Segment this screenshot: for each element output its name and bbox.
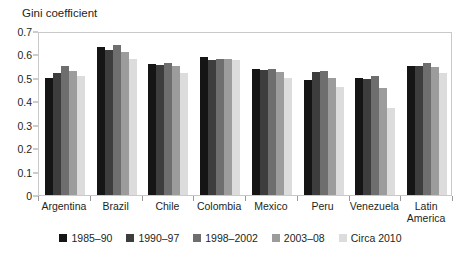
bar bbox=[304, 80, 312, 195]
bar bbox=[379, 88, 387, 195]
x-axis-label: Colombia bbox=[193, 200, 245, 212]
legend-swatch-icon bbox=[193, 234, 201, 242]
bar bbox=[172, 66, 180, 195]
bar bbox=[415, 66, 423, 195]
bar-group bbox=[298, 33, 350, 195]
bar-group-bars bbox=[401, 33, 453, 195]
bar bbox=[148, 64, 156, 195]
y-axis-tick-mark bbox=[33, 125, 38, 126]
bar-group-bars bbox=[194, 33, 246, 195]
bar bbox=[45, 78, 53, 195]
legend-label: 1998–2002 bbox=[205, 232, 258, 244]
bar-group bbox=[401, 33, 453, 195]
bar bbox=[105, 50, 113, 195]
bar bbox=[69, 71, 77, 195]
legend-item[interactable]: 1990–97 bbox=[126, 232, 179, 244]
x-axis-group-separator bbox=[90, 196, 91, 201]
bar bbox=[439, 73, 447, 195]
y-axis-tick-mark bbox=[33, 78, 38, 79]
bar-group-bars bbox=[298, 33, 350, 195]
bar bbox=[284, 78, 292, 195]
bar bbox=[371, 76, 379, 195]
x-axis-group-separator bbox=[349, 196, 350, 201]
x-axis-label: Latin America bbox=[400, 200, 452, 224]
bar-group bbox=[246, 33, 298, 195]
bar bbox=[232, 60, 240, 195]
x-axis-group-separator bbox=[38, 196, 39, 201]
bar bbox=[407, 66, 415, 195]
bar bbox=[260, 70, 268, 195]
bar bbox=[216, 59, 224, 195]
y-axis-tick-label: 0.4 bbox=[17, 97, 32, 108]
legend-label: 1985–90 bbox=[71, 232, 112, 244]
legend-label: 1990–97 bbox=[138, 232, 179, 244]
legend-item[interactable]: Circa 2010 bbox=[339, 232, 402, 244]
legend-item[interactable]: 1998–2002 bbox=[193, 232, 258, 244]
bar bbox=[387, 108, 395, 195]
legend-item[interactable]: 1985–90 bbox=[59, 232, 112, 244]
x-axis-group-separator bbox=[452, 196, 453, 201]
bar bbox=[328, 78, 336, 195]
bar bbox=[276, 72, 284, 195]
bar bbox=[121, 52, 129, 195]
x-axis-label: Peru bbox=[297, 200, 349, 212]
bar bbox=[164, 63, 172, 195]
x-axis-group-separator bbox=[193, 196, 194, 201]
x-axis-label: Mexico bbox=[245, 200, 297, 212]
y-axis-tick-mark bbox=[33, 32, 38, 33]
bar-group bbox=[91, 33, 143, 195]
y-axis-tick-label: 0.3 bbox=[17, 120, 32, 131]
x-axis-label: Venezuela bbox=[349, 200, 401, 212]
bar bbox=[431, 67, 439, 195]
bar bbox=[268, 69, 276, 196]
y-axis-tick-label: 0.5 bbox=[17, 73, 32, 84]
bar-group bbox=[39, 33, 91, 195]
x-axis-label: Chile bbox=[142, 200, 194, 212]
y-axis: 0.70.60.50.40.30.20.10 bbox=[0, 32, 32, 196]
x-axis-group-separator bbox=[400, 196, 401, 201]
chart-figure: Gini coefficient 0.70.60.50.40.30.20.10 … bbox=[0, 0, 461, 259]
bar bbox=[320, 71, 328, 195]
bar bbox=[252, 69, 260, 196]
legend-swatch-icon bbox=[339, 234, 347, 242]
legend-label: Circa 2010 bbox=[351, 232, 402, 244]
bar-group bbox=[350, 33, 402, 195]
y-axis-tick-mark bbox=[33, 149, 38, 150]
legend-swatch-icon bbox=[126, 234, 134, 242]
bar bbox=[208, 60, 216, 195]
legend-swatch-icon bbox=[272, 234, 280, 242]
y-axis-tick-mark bbox=[33, 102, 38, 103]
chart-title: Gini coefficient bbox=[22, 6, 97, 20]
chart-legend: 1985–901990–971998–20022003–08Circa 2010 bbox=[0, 232, 461, 244]
x-axis-group-separator bbox=[297, 196, 298, 201]
bar bbox=[61, 66, 69, 195]
legend-label: 2003–08 bbox=[284, 232, 325, 244]
bar-group-bars bbox=[39, 33, 91, 195]
x-axis-label: Brazil bbox=[90, 200, 142, 212]
plot-inner bbox=[39, 33, 451, 195]
y-axis-tick-label: 0.2 bbox=[17, 144, 32, 155]
bar bbox=[97, 47, 105, 195]
bar bbox=[224, 59, 232, 195]
y-axis-tick-mark bbox=[33, 55, 38, 56]
legend-swatch-icon bbox=[59, 234, 67, 242]
y-axis-tick-label: 0.1 bbox=[17, 167, 32, 178]
bar bbox=[129, 59, 137, 195]
legend-item[interactable]: 2003–08 bbox=[272, 232, 325, 244]
bar bbox=[355, 78, 363, 195]
bar-group bbox=[143, 33, 195, 195]
bar bbox=[312, 72, 320, 195]
bar-group bbox=[194, 33, 246, 195]
x-axis-label: Argentina bbox=[38, 200, 90, 212]
x-axis-group-separator bbox=[142, 196, 143, 201]
y-axis-tick-label: 0.6 bbox=[17, 50, 32, 61]
bar bbox=[363, 79, 371, 195]
bar bbox=[77, 76, 85, 195]
bar-group-bars bbox=[246, 33, 298, 195]
bar bbox=[423, 63, 431, 195]
bar-group-bars bbox=[350, 33, 402, 195]
bar bbox=[336, 87, 344, 195]
bar bbox=[200, 57, 208, 195]
y-axis-tick-label: 0.7 bbox=[17, 27, 32, 38]
bar bbox=[53, 73, 61, 195]
